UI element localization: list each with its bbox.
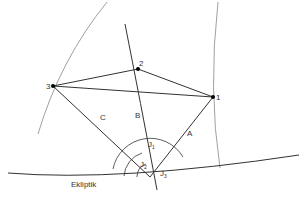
point-2-label: 2 <box>139 59 144 68</box>
ecliptic-label: Ekliptik <box>71 180 97 189</box>
angle-J1-label: J1 <box>148 140 155 150</box>
angle-J2-label: J2 <box>140 160 147 170</box>
right-great-circle <box>213 2 220 168</box>
line-C-label: C <box>100 113 106 122</box>
edge-3-2 <box>53 69 138 86</box>
line-A <box>150 97 213 177</box>
line-B-label: B <box>135 111 140 120</box>
point-1-label: 1 <box>216 93 221 102</box>
point-1 <box>211 95 215 99</box>
line-C <box>53 86 150 177</box>
point-3 <box>51 84 55 88</box>
left-great-circle <box>38 2 107 134</box>
point-3-label: 3 <box>46 82 51 91</box>
ecliptic-angle-diagram: 1 2 3 A B C J1 J2 J3 Ekliptik <box>0 0 299 205</box>
line-A-label: A <box>187 129 193 138</box>
